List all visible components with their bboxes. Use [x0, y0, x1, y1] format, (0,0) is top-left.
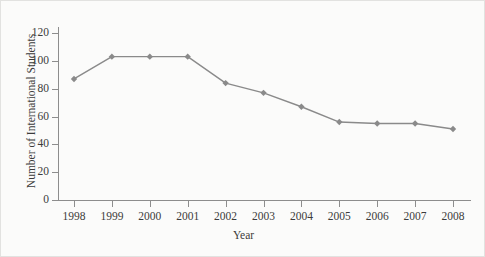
data-point-marker: [260, 90, 266, 96]
data-point-marker: [71, 76, 77, 82]
data-point-marker: [109, 53, 115, 59]
x-axis-title: Year: [1, 229, 485, 241]
data-point-marker: [412, 120, 418, 126]
series-marker-group: [71, 53, 456, 132]
data-point-marker: [450, 126, 456, 132]
line-chart-figure: 020406080100120 199819992000200120022003…: [0, 0, 485, 257]
plot-area: 020406080100120 199819992000200120022003…: [1, 1, 485, 257]
data-point-marker: [298, 104, 304, 110]
data-point-marker: [374, 120, 380, 126]
y-axis-title: Number of International Students: [25, 21, 37, 201]
data-point-marker: [147, 53, 153, 59]
data-series-layer: [1, 1, 485, 257]
data-point-marker: [336, 119, 342, 125]
